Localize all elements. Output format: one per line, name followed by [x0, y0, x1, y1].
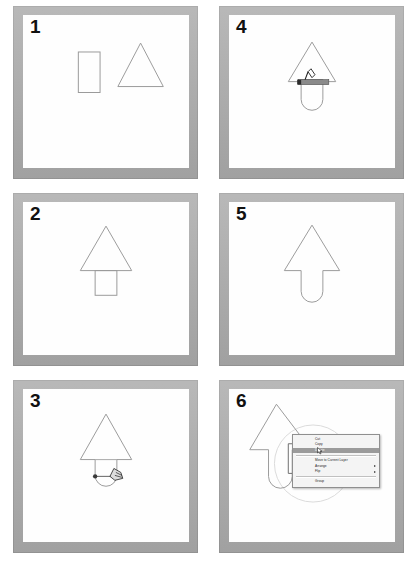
menu-item-delete[interactable]: Delete — [293, 448, 379, 453]
panel-5-artwork — [229, 202, 395, 355]
hand-drag-cursor — [110, 468, 123, 480]
tutorial-panel-4: 4 — [206, 0, 412, 187]
panel-frame: 1 — [13, 6, 198, 179]
pointer-cursor — [308, 69, 315, 78]
panel-frame: 6 Cut Copy Delete Move to Current Layer … — [219, 380, 404, 553]
rectangle-shape — [78, 52, 100, 93]
rectangle-shape — [95, 271, 117, 296]
drawing-canvas[interactable]: 4 — [229, 15, 395, 168]
triangle-shape — [118, 43, 163, 86]
step-number: 1 — [30, 17, 40, 36]
menu-item-group[interactable]: Group — [293, 479, 379, 484]
drawing-canvas[interactable]: 2 — [23, 202, 189, 355]
tutorial-panel-grid: 1 4 — [0, 0, 412, 561]
panel-frame: 4 — [219, 6, 404, 179]
tutorial-panel-3: 3 — [0, 374, 206, 561]
tutorial-panel-5: 5 — [206, 187, 412, 374]
step-number: 2 — [30, 204, 40, 223]
panel-frame: 2 — [13, 193, 198, 366]
step-number: 5 — [236, 204, 246, 223]
pointer-cursor-tail — [305, 72, 308, 80]
pointer-cursor — [317, 447, 323, 455]
selection-handle — [297, 80, 301, 85]
panel-frame: 3 — [13, 380, 198, 553]
menu-item-flip[interactable]: Flip — [293, 469, 379, 474]
drawing-canvas[interactable]: 6 Cut Copy Delete Move to Current Layer … — [229, 389, 395, 542]
selection-bar — [298, 80, 329, 85]
tutorial-panel-2: 2 — [0, 187, 206, 374]
panel-1-artwork — [23, 15, 189, 168]
chevron-right-icon — [374, 465, 376, 467]
drawing-canvas[interactable]: 1 — [23, 15, 189, 168]
menu-separator — [296, 455, 376, 457]
panel-2-artwork — [23, 202, 189, 355]
menu-separator — [296, 476, 376, 478]
panel-4-artwork — [229, 15, 395, 168]
step-number: 6 — [236, 391, 246, 410]
drawing-canvas[interactable]: 5 — [229, 202, 395, 355]
triangle-shape — [80, 226, 131, 270]
step-number: 3 — [30, 391, 40, 410]
step-number: 4 — [236, 17, 246, 36]
tutorial-panel-6: 6 Cut Copy Delete Move to Current Layer … — [206, 374, 412, 561]
panel-frame: 5 — [219, 193, 404, 366]
arrow-shape — [284, 225, 339, 302]
tutorial-panel-1: 1 — [0, 0, 206, 187]
triangle-shape — [80, 414, 131, 459]
panel-3-artwork — [23, 389, 189, 542]
chevron-right-icon — [374, 471, 376, 473]
drawing-canvas[interactable]: 3 — [23, 389, 189, 542]
context-menu[interactable]: Cut Copy Delete Move to Current Layer Ar… — [292, 434, 380, 488]
